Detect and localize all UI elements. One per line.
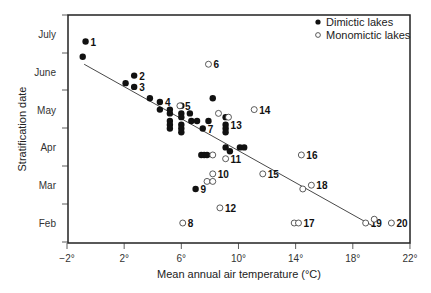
x-tick-label: 18° <box>345 253 360 264</box>
dimictic-point <box>167 125 173 131</box>
dimictic-point <box>147 95 153 101</box>
point-label: 4 <box>165 97 171 108</box>
monomictic-point <box>388 220 394 226</box>
monomictic-point <box>260 171 266 177</box>
x-tick-label: 22° <box>402 253 417 264</box>
dimictic-point <box>222 129 228 135</box>
y-tick-label: Feb <box>39 218 57 229</box>
point-label: 10 <box>218 169 230 180</box>
scatter-chart: −2°2°6°10°14°18°22° FebMarAprMayJuneJuly… <box>0 0 431 293</box>
dimictic-point <box>194 118 200 124</box>
point-label: 12 <box>225 203 237 214</box>
dimictic-point <box>210 95 216 101</box>
point-label: 13 <box>231 120 243 131</box>
dimictic-point <box>178 114 184 120</box>
point-label: 5 <box>185 101 191 112</box>
x-axis-title: Mean annual air temperature (°C) <box>157 268 321 280</box>
legend-monomictic-marker <box>316 33 321 38</box>
dimictic-point <box>131 84 137 90</box>
y-axis: FebMarAprMayJuneJuly <box>34 15 68 242</box>
monomictic-point <box>204 178 210 184</box>
point-label: 7 <box>208 124 214 135</box>
monomictic-point <box>210 152 216 158</box>
dimictic-point <box>122 80 128 86</box>
monomictic-point <box>215 110 221 116</box>
monomictic-point <box>298 152 304 158</box>
point-label: 11 <box>231 154 242 165</box>
monomictic-point <box>205 61 211 67</box>
data-points: 1234713965141110128151618171920 <box>80 37 408 229</box>
x-tick-label: 10° <box>231 253 246 264</box>
dimictic-point <box>178 129 184 135</box>
point-label: 16 <box>306 150 318 161</box>
point-label: 2 <box>139 71 145 82</box>
monomictic-point <box>177 103 183 109</box>
monomictic-point <box>223 156 229 162</box>
x-axis: −2°2°6°10°14°18°22° <box>59 243 417 264</box>
dimictic-point <box>205 118 211 124</box>
legend: Dimictic lakes Monomictic lakes <box>315 16 410 41</box>
monomictic-point <box>363 220 369 226</box>
point-label: 18 <box>316 180 328 191</box>
x-tick-label: 6° <box>177 253 187 264</box>
dimictic-point <box>80 53 86 59</box>
monomictic-point <box>210 178 216 184</box>
point-label: 20 <box>396 218 408 229</box>
legend-dimictic-marker <box>315 19 320 24</box>
dimictic-point <box>192 186 198 192</box>
y-tick-label: June <box>34 67 56 78</box>
monomictic-point <box>225 114 231 120</box>
legend-monomictic-label: Monomictic lakes <box>326 29 411 41</box>
point-label: 17 <box>303 218 315 229</box>
dimictic-point <box>188 118 194 124</box>
monomictic-point <box>251 107 257 113</box>
point-label: 15 <box>268 169 280 180</box>
point-label: 9 <box>201 184 207 195</box>
point-label: 1 <box>91 37 97 48</box>
dimictic-point <box>157 99 163 105</box>
monomictic-point <box>295 220 301 226</box>
point-label: 6 <box>213 59 219 70</box>
y-tick-label: May <box>37 105 56 116</box>
dimictic-point <box>131 72 137 78</box>
monomictic-point <box>217 205 223 211</box>
monomictic-point <box>210 171 216 177</box>
y-tick-label: Apr <box>40 142 56 153</box>
dimictic-point <box>82 38 88 44</box>
y-tick-label: Mar <box>39 180 57 191</box>
dimictic-point <box>241 144 247 150</box>
x-tick-label: −2° <box>59 253 74 264</box>
x-tick-label: 2° <box>119 253 129 264</box>
dimictic-point <box>200 125 206 131</box>
y-axis-title: Stratification date <box>16 87 28 172</box>
dimictic-point <box>204 152 210 158</box>
legend-dimictic-label: Dimictic lakes <box>326 16 394 28</box>
point-label: 8 <box>188 218 194 229</box>
point-label: 14 <box>259 105 271 116</box>
monomictic-point <box>371 216 377 222</box>
y-tick-label: July <box>38 29 56 40</box>
monomictic-point <box>180 220 186 226</box>
monomictic-point <box>300 186 306 192</box>
x-tick-label: 14° <box>288 253 303 264</box>
dimictic-point <box>167 110 173 116</box>
point-label: 3 <box>139 82 145 93</box>
monomictic-point <box>308 182 314 188</box>
dimictic-point <box>157 106 163 112</box>
